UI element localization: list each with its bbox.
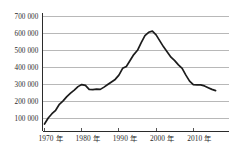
y-axis-tick-labels: 100 000200 000300 000400 000500 000600 0… — [14, 13, 38, 124]
chart-canvas: 100 000200 000300 000400 000500 000600 0… — [0, 0, 233, 153]
series-line-value — [45, 31, 216, 124]
y-tick-label: 300 000 — [14, 81, 38, 89]
y-tick-label: 400 000 — [14, 64, 38, 72]
x-tick-label: 1970 年 — [38, 134, 63, 143]
line-chart: 100 000200 000300 000400 000500 000600 0… — [0, 0, 233, 153]
y-tick-label: 500 000 — [14, 47, 38, 55]
y-tick-label: 100 000 — [14, 115, 38, 123]
x-tick-label: 2010 年 — [187, 134, 212, 143]
x-tick-label: 1990 年 — [113, 134, 138, 143]
x-tick-label: 1980 年 — [76, 134, 101, 143]
x-tick-label: 2000 年 — [150, 134, 175, 143]
gridlines — [43, 16, 229, 119]
x-axis-tick-labels: 1970 年1980 年1990 年2000 年2010 年 — [38, 134, 212, 143]
y-tick-label: 700 000 — [14, 13, 38, 21]
y-tick-label: 600 000 — [14, 30, 38, 38]
y-tick-label: 200 000 — [14, 98, 38, 106]
axes — [43, 13, 229, 131]
